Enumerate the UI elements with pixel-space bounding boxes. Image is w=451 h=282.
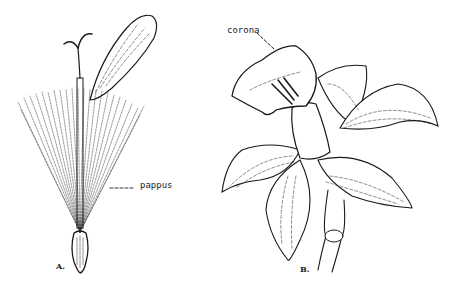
corolla-lobe	[90, 15, 157, 100]
corona-rim	[232, 46, 316, 115]
corona-tube	[292, 103, 330, 159]
panel-b-letter: B.	[300, 265, 310, 273]
panel-a-letter: A.	[56, 262, 65, 270]
panel-a-drawing	[18, 15, 157, 273]
pappus-label: pappus	[140, 181, 173, 190]
botanical-figure	[0, 0, 451, 282]
corona-leader-line	[257, 33, 274, 49]
pappus-bristles	[18, 88, 144, 232]
petal-lower-right	[318, 157, 412, 208]
achene	[72, 231, 88, 273]
corona-label: corona	[227, 26, 260, 35]
panel-b-drawing	[222, 33, 438, 272]
